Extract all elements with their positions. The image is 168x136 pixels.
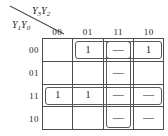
- kmap-cell-r0-c3[interactable]: 1: [134, 39, 163, 61]
- kmap-cell-r2-c0[interactable]: 1: [43, 85, 73, 107]
- kmap-cell-value: —: [113, 112, 124, 122]
- kmap-cell-value: 1: [85, 45, 90, 55]
- kmap-cell-value: —: [143, 112, 154, 122]
- column-axis-label: Y3Y2: [32, 6, 50, 19]
- column-header-00-0: 00: [42, 26, 73, 38]
- kmap-row: 1—1: [43, 39, 163, 62]
- kmap-cell-r1-c2[interactable]: —: [104, 62, 134, 84]
- kmap-cell-value: —: [113, 44, 124, 54]
- kmap-cell-value: 1: [85, 90, 90, 100]
- row-axis-sub2: 0: [27, 24, 31, 32]
- kmap-row: ——: [43, 107, 163, 129]
- column-header-11-2: 11: [103, 26, 134, 38]
- kmap-row: 11——: [43, 85, 163, 108]
- kmap-cell-r3-c0[interactable]: [43, 107, 73, 129]
- kmap-cell-r3-c1[interactable]: [73, 107, 103, 129]
- row-header-10-3: 10: [20, 107, 40, 130]
- kmap-cell-value: —: [143, 89, 154, 99]
- kmap-cell-r0-c1[interactable]: 1: [73, 39, 103, 61]
- kmap-cell-r3-c3[interactable]: —: [134, 107, 163, 129]
- kmap-cell-r3-c2[interactable]: —: [104, 107, 134, 129]
- kmap-cell-value: 1: [146, 45, 151, 55]
- kmap-cell-r0-c2[interactable]: —: [104, 39, 134, 61]
- column-header-10-3: 10: [134, 26, 165, 38]
- kmap-row: —: [43, 62, 163, 85]
- kmap-cell-r2-c2[interactable]: —: [104, 85, 134, 107]
- kmap-cell-r2-c1[interactable]: 1: [73, 85, 103, 107]
- karnaugh-map-diagram: Y3Y2 Y1Y0 00011110 00011110 1—1—11————: [0, 0, 168, 136]
- kmap-cell-value: —: [113, 67, 124, 77]
- kmap-cell-value: 1: [55, 90, 60, 100]
- row-axis-label: Y1Y0: [12, 20, 30, 33]
- kmap-cell-r2-c3[interactable]: —: [134, 85, 163, 107]
- row-header-11-2: 11: [20, 84, 40, 107]
- column-headers: 00011110: [42, 26, 164, 38]
- column-axis-sub2: 2: [47, 10, 51, 18]
- kmap-cell-r1-c3[interactable]: [134, 62, 163, 84]
- row-header-01-1: 01: [20, 61, 40, 84]
- row-headers: 00011110: [20, 38, 40, 130]
- kmap-cell-r1-c1[interactable]: [73, 62, 103, 84]
- column-header-01-1: 01: [73, 26, 104, 38]
- kmap-grid: 1—1—11————: [42, 38, 164, 130]
- kmap-cell-value: —: [113, 89, 124, 99]
- row-header-00-0: 00: [20, 38, 40, 61]
- kmap-cell-r1-c0[interactable]: [43, 62, 73, 84]
- kmap-cell-r0-c0[interactable]: [43, 39, 73, 61]
